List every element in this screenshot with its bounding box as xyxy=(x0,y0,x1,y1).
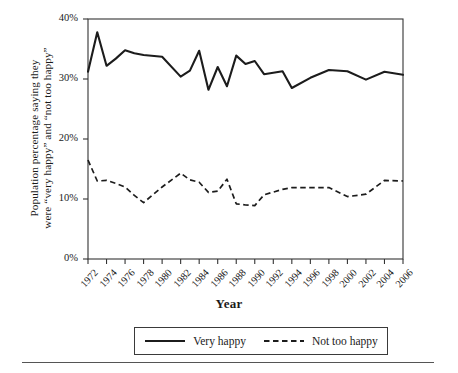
y-tick-label: 0% xyxy=(44,253,78,263)
series-line-not-too-happy xyxy=(88,160,403,206)
y-tick-label: 30% xyxy=(44,73,78,83)
plot-canvas xyxy=(0,0,458,373)
y-axis-title-line-1: Population percentage saying they xyxy=(28,13,41,263)
legend-item-very-happy: Very happy xyxy=(144,335,246,347)
legend-label-not-too-happy: Not too happy xyxy=(312,335,378,347)
y-tick-label: 40% xyxy=(44,13,78,23)
legend-swatch-solid-icon xyxy=(144,336,186,346)
legend-item-not-too-happy: Not too happy xyxy=(263,335,378,347)
legend-swatch-dashed-icon xyxy=(263,336,305,346)
y-tick-label: 20% xyxy=(44,133,78,143)
plot-frame xyxy=(88,19,403,259)
series-line-very-happy xyxy=(88,32,403,90)
chart-legend: Very happy Not too happy xyxy=(134,327,388,355)
y-tick-label: 10% xyxy=(44,193,78,203)
footer-divider xyxy=(22,362,434,363)
legend-label-very-happy: Very happy xyxy=(193,335,246,347)
chart-figure: Population percentage saying they were “… xyxy=(0,0,458,373)
x-axis-title: Year xyxy=(0,296,458,312)
